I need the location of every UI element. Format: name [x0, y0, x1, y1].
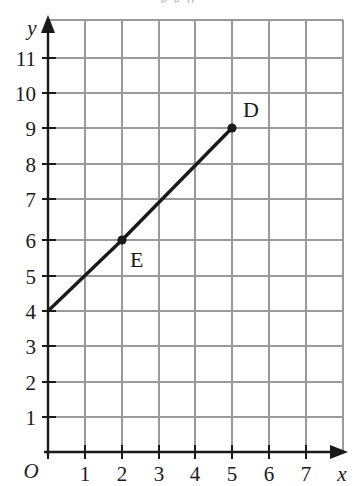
y-tick-label: 7 — [26, 188, 37, 212]
x-tick-label: 7 — [301, 462, 312, 486]
data-point-E — [117, 235, 126, 244]
x-tick-label: 1 — [80, 462, 91, 486]
line-segment-DE — [48, 128, 232, 311]
y-tick-label: 10 — [15, 82, 36, 106]
point-label-E: E — [130, 247, 143, 272]
data-point-D — [227, 123, 236, 132]
y-axis-tick-labels: 11 10 9 8 7 6 5 4 3 2 1 — [15, 47, 37, 430]
y-tick-label: 3 — [26, 335, 37, 359]
x-tick-label: 5 — [227, 462, 238, 486]
y-tick-label: 1 — [26, 406, 37, 430]
x-tick-label: 3 — [154, 462, 165, 486]
y-tick-label: 5 — [26, 265, 37, 289]
coordinate-graph: 11 10 9 8 7 6 5 4 3 2 1 1 2 3 4 5 6 7 y … — [0, 0, 355, 486]
x-axis-tick-labels: 1 2 3 4 5 6 7 — [80, 462, 312, 486]
y-axis-arrowhead — [41, 15, 55, 33]
graph-figure: g g p — [0, 0, 355, 486]
x-tick-label: 4 — [190, 462, 201, 486]
point-label-D: D — [243, 97, 259, 122]
x-axis-label: x — [336, 462, 347, 486]
y-tick-label: 6 — [26, 229, 37, 253]
y-tick-label: 8 — [26, 153, 37, 177]
x-axis-arrowhead — [330, 445, 348, 459]
axis-lines — [44, 26, 336, 456]
y-tick-label: 11 — [16, 47, 36, 71]
grid-lines — [48, 20, 343, 452]
y-tick-label: 4 — [26, 300, 37, 324]
x-tick-label: 6 — [264, 462, 275, 486]
y-axis-label: y — [25, 16, 37, 40]
x-tick-label: 2 — [117, 462, 128, 486]
y-tick-label: 9 — [26, 117, 37, 141]
y-tick-label: 2 — [26, 371, 37, 395]
origin-label: O — [23, 459, 38, 483]
